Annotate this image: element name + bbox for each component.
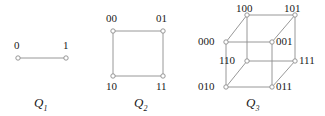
vertex-label: 1 [63, 40, 69, 51]
vertex-label: 010 [198, 81, 215, 92]
vertex-label: 111 [299, 55, 315, 66]
graph-vertex [111, 74, 115, 78]
graph-q3 [224, 13, 297, 89]
vertex-label: 110 [219, 55, 235, 66]
vertex-label: 001 [276, 36, 293, 47]
graph-q2 [111, 29, 165, 78]
graph-edge [226, 15, 247, 42]
graph-name-subscript: 3 [255, 104, 259, 113]
vertex-label: 000 [198, 36, 215, 47]
graph-vertex [224, 85, 228, 89]
graph-name-subscript: 1 [43, 104, 47, 113]
vertex-label: 10 [106, 81, 117, 92]
vertex-label: 01 [156, 13, 167, 24]
graph-vertex [161, 29, 165, 33]
graph-name-label: Q1 [34, 96, 47, 113]
graph-name-subscript: 2 [143, 104, 147, 113]
hypercube-graphs-figure: 01Q100011011Q2100101000001110111010011Q3 [0, 0, 325, 116]
vertex-label: 011 [276, 81, 292, 92]
vertex-label: 11 [156, 81, 167, 92]
graph-vertex [224, 40, 228, 44]
graph-name-label: Q3 [246, 96, 259, 113]
graph-name-letter: Q [246, 95, 255, 110]
graph-vertex [161, 74, 165, 78]
graph-vertex [270, 85, 274, 89]
vertex-label: 101 [284, 3, 301, 14]
graph-vertex [270, 40, 274, 44]
graph-vertex [245, 59, 249, 63]
vertex-label: 0 [14, 40, 20, 51]
vertex-label: 00 [106, 13, 117, 24]
graph-vertex [64, 56, 68, 60]
vertex-label: 100 [236, 3, 253, 14]
graph-name-letter: Q [134, 95, 143, 110]
graph-name-label: Q2 [134, 96, 147, 113]
graph-q1 [16, 56, 68, 60]
graph-vertex [16, 56, 20, 60]
graph-name-letter: Q [34, 95, 43, 110]
graph-vertex [293, 59, 297, 63]
graph-vertex [111, 29, 115, 33]
